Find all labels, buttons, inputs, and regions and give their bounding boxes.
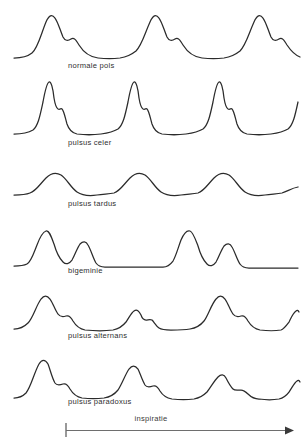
waveform-path xyxy=(14,231,298,268)
waveform-label-bigeminie: bigeminie xyxy=(68,267,103,275)
waveform-label-pulsus-celer: pulsus celer xyxy=(68,139,112,147)
waveform-label-normale-pols: normale pols xyxy=(68,62,114,70)
waveform-label-pulsus-tardus: pulsus tardus xyxy=(68,200,116,208)
waveform-row-pulsus-tardus xyxy=(0,158,302,204)
waveform-normale-pols xyxy=(0,8,302,68)
waveform-pulsus-alternans xyxy=(0,286,302,336)
waveform-bigeminie xyxy=(0,220,302,272)
waveform-label-pulsus-alternans: pulsus alternans xyxy=(68,332,127,340)
inspiration-axis-label: inspiratie xyxy=(0,415,302,423)
pulse-waveform-figure: normale pols pulsus celer pulsus tardus … xyxy=(0,0,302,448)
waveform-row-bigeminie xyxy=(0,220,302,272)
waveform-path xyxy=(14,296,299,331)
waveform-path xyxy=(14,16,300,59)
waveform-pulsus-paradoxus xyxy=(0,352,302,404)
waveform-row-pulsus-paradoxus xyxy=(0,352,302,404)
waveform-row-pulsus-alternans xyxy=(0,286,302,336)
waveform-pulsus-celer xyxy=(0,76,302,138)
waveform-path xyxy=(14,82,298,135)
waveform-row-pulsus-celer xyxy=(0,76,302,138)
waveform-label-pulsus-paradoxus: pulsus paradoxus xyxy=(68,398,132,406)
waveform-path xyxy=(14,360,300,400)
axis-arrowhead xyxy=(285,427,294,435)
waveform-row-normale-pols xyxy=(0,8,302,68)
waveform-path xyxy=(14,173,298,195)
waveform-pulsus-tardus xyxy=(0,158,302,204)
